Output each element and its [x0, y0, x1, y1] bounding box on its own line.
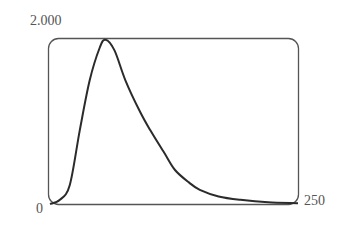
chart-plot-area: [0, 0, 347, 225]
data-curve: [50, 40, 298, 204]
chart-frame: [49, 39, 299, 205]
